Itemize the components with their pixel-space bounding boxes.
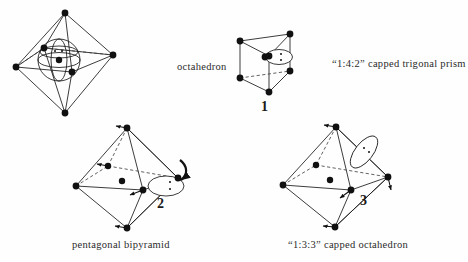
octahedron-central-atom xyxy=(56,57,62,63)
caption-pentagonal-bipyramid: pentagonal bipyramid xyxy=(72,239,170,250)
caption-capped-trigonal-prism: “1:4:2” capped trigonal prism xyxy=(332,58,466,69)
structure-capped-trigonal-prism xyxy=(237,31,294,96)
bipyramid-central-atom xyxy=(119,178,125,184)
numeral-label-2: 2 xyxy=(157,196,164,212)
capped-oct-central-atom xyxy=(327,177,333,183)
caption-capped-octahedron: “1:3:3” capped octahedron xyxy=(288,239,408,250)
capped-oct-distortion-arrows xyxy=(323,125,391,227)
octahedron-vertices xyxy=(13,10,117,117)
figure-page: octahedron “1:4:2” capped trigonal prism… xyxy=(0,0,468,262)
caption-octahedron: octahedron xyxy=(177,61,227,72)
polyhedra-diagram xyxy=(0,0,468,262)
structure-capped-octahedron xyxy=(280,124,392,231)
prism-hidden-edges xyxy=(240,71,290,78)
structure-pentagonal-bipyramid xyxy=(73,125,187,232)
octahedron-lone-pair-dots xyxy=(54,50,63,52)
numeral-label-3: 3 xyxy=(360,193,367,209)
numeral-label-1: 1 xyxy=(261,99,268,115)
octahedron-edges xyxy=(16,13,113,113)
structure-octahedron xyxy=(13,10,117,117)
prism-central-atom xyxy=(262,54,269,61)
bipyramid-distortion-arrows xyxy=(97,126,143,228)
